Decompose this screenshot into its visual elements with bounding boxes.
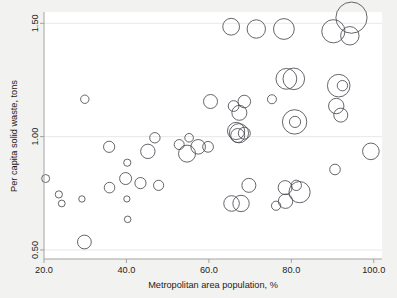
x-tick-label: 80.0 (282, 265, 300, 275)
x-tick-label: 60.0 (200, 265, 218, 275)
y-tick-label: 1.50 (30, 14, 40, 32)
x-tick-label: 100.0 (362, 265, 385, 275)
y-tick-label: 0.50 (30, 241, 40, 259)
x-tick-label: 40.0 (117, 265, 135, 275)
y-axis-title: Per capita solid waste, tons (9, 80, 19, 192)
plot-area-background (44, 12, 382, 259)
x-axis-title: Metropolitan area population, % (148, 280, 278, 290)
y-tick-label: 1.00 (30, 128, 40, 146)
scatter-plot-canvas: 20.040.060.080.0100.0 0.501.001.50 Metro… (0, 0, 397, 298)
x-tick-label: 20.0 (35, 265, 53, 275)
bubble-chart-figure: 20.040.060.080.0100.0 0.501.001.50 Metro… (0, 0, 397, 298)
